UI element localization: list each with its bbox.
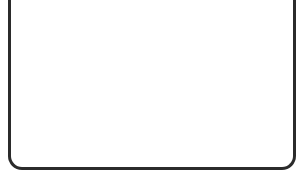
line-chart: [0, 0, 301, 176]
